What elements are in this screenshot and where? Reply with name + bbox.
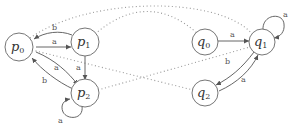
link-p1-q0 bbox=[95, 12, 198, 35]
edge-label-p0-p2: a bbox=[54, 63, 59, 72]
automata-diagram: b a a a b a a a b a p0 p1 p2 q0 bbox=[0, 0, 302, 125]
link-p0-q1 bbox=[30, 6, 252, 38]
edge-label-p2-loop: a bbox=[58, 116, 63, 125]
edge-label-p1-p2: a bbox=[76, 63, 81, 72]
edge-label-q2-q1: a bbox=[241, 75, 246, 84]
edge-label-p2-p0: b bbox=[42, 76, 47, 85]
edge-label-p1-p0: b bbox=[52, 23, 57, 32]
relation-links bbox=[30, 6, 252, 90]
edge-label-q0-q1: a bbox=[230, 30, 235, 39]
state-p2: p2 bbox=[71, 79, 99, 107]
edge-label-q1-loop: a bbox=[283, 10, 288, 19]
edge-q1-q2 bbox=[216, 52, 254, 85]
state-q0: q0 bbox=[192, 29, 218, 55]
state-p0: p0 bbox=[5, 33, 33, 61]
state-p1: p1 bbox=[71, 28, 99, 56]
edge-label-q1-q2: b bbox=[225, 57, 230, 66]
state-q1: q1 bbox=[249, 29, 275, 55]
edge-p2-p0 bbox=[32, 58, 73, 89]
link-p2-q1 bbox=[98, 47, 250, 90]
state-q2: q2 bbox=[192, 80, 218, 106]
edge-label-p0-p1: a bbox=[52, 37, 57, 46]
